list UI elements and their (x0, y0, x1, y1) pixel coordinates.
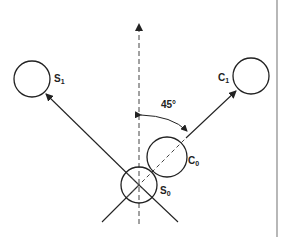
circle-s1 (14, 61, 50, 97)
c0-to-c1-arrow (186, 91, 236, 138)
label-c1: C1 (218, 72, 229, 84)
s0-to-s1-arrow (46, 94, 139, 185)
label-angle: 45° (161, 99, 176, 110)
angle-arc (141, 115, 187, 131)
circle-c1 (233, 58, 269, 94)
label-s0: S0 (160, 185, 171, 197)
label-s1: S1 (54, 73, 65, 85)
label-c0: C0 (188, 155, 199, 167)
lower-right-line (139, 185, 178, 222)
collision-diagram: S1 C1 C0 S0 45° (0, 0, 288, 237)
